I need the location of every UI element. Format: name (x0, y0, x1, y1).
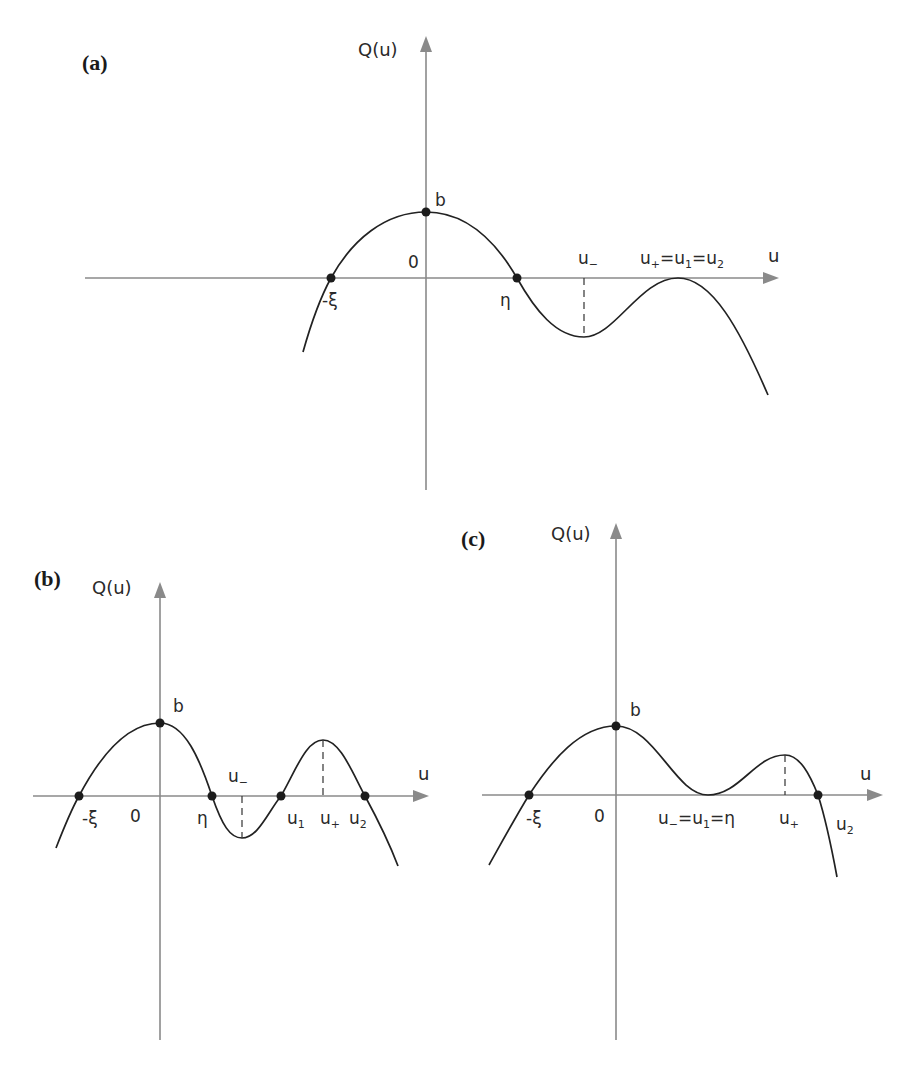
panel-c-neg-xi-label: -ξ (526, 808, 542, 828)
panel-a-x-label: u (768, 245, 779, 266)
panel-b-label: (b) (34, 566, 61, 591)
panel-b-x-arrow-icon (413, 790, 429, 802)
panel-a-u-plus-eq-label: u+=u1=u2 (640, 248, 724, 271)
panel-a-u-minus-label: u− (578, 248, 598, 271)
panel-b-y-arrow-icon (154, 582, 166, 598)
panel-a-eta-label: η (500, 290, 511, 310)
panel-b-x-label: u (418, 763, 429, 784)
panel-b-curve (56, 723, 398, 866)
panel-c-x-label: u (860, 763, 871, 784)
panel-a-x-arrow-icon (763, 272, 779, 284)
panel-a-y-arrow-icon (420, 36, 432, 52)
panel-a-label: (a) (82, 50, 108, 75)
panel-b-u2-label: u2 (349, 808, 367, 831)
panel-b-u-minus-label: u− (228, 766, 248, 789)
panel-c-y-arrow-icon (610, 523, 622, 539)
panel-c-neg-xi-point (525, 791, 534, 800)
panel-a-eta-point (513, 274, 522, 283)
panel-c-combined-root-label: u−=u1=η (658, 808, 735, 831)
panel-c-origin-label: 0 (594, 806, 605, 826)
panel-b-neg-xi-point (75, 792, 84, 801)
panel-c-b-point (612, 722, 621, 731)
panel-c-u-plus-label: u+ (779, 808, 799, 831)
panel-c-b-label: b (630, 700, 641, 720)
panel-a-origin-label: 0 (408, 252, 419, 272)
panel-a-neg-xi-point (327, 274, 336, 283)
panel-c-u2-label: u2 (836, 814, 854, 837)
panel-c: (c) Q(u) u 0 b -ξ u−=u1=η u+ u2 (461, 523, 883, 1040)
panel-a-b-point (422, 208, 431, 217)
panel-a: (a) Q(u) u 0 b -ξ η u− u+=u1=u2 (82, 36, 779, 490)
panel-b-u-plus-label: u+ (320, 808, 340, 831)
panel-b-eta-point (208, 792, 217, 801)
figure-canvas: (a) Q(u) u 0 b -ξ η u− u+=u1=u2 (b) Q(u)… (0, 0, 910, 1092)
panel-b-b-label: b (173, 696, 184, 716)
panel-a-curve (303, 212, 768, 395)
panel-b-u2-point (361, 792, 370, 801)
panel-a-neg-xi-label: -ξ (322, 290, 338, 310)
panel-b-y-label: Q(u) (92, 577, 132, 598)
panel-c-curve (489, 726, 837, 877)
panel-b-u1-label: u1 (287, 808, 305, 831)
panel-c-u2-point (814, 791, 823, 800)
panel-a-b-label: b (435, 190, 446, 210)
panel-b-eta-label: η (197, 808, 208, 828)
panel-c-label: (c) (461, 526, 485, 551)
panel-b-origin-label: 0 (130, 806, 141, 826)
panel-c-y-label: Q(u) (551, 523, 591, 544)
panel-b-u1-point (277, 792, 286, 801)
panel-c-x-arrow-icon (867, 789, 883, 801)
panel-a-y-label: Q(u) (358, 39, 398, 60)
panel-b: (b) Q(u) u 0 b -ξ η u− u1 u+ u2 (33, 566, 429, 1040)
panel-b-b-point (156, 719, 165, 728)
panel-b-neg-xi-label: -ξ (82, 808, 98, 828)
